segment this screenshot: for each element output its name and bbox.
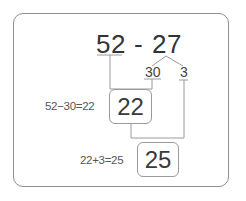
minuend: 52 [96, 31, 126, 57]
step1-result-box: 22 [109, 89, 152, 124]
decomposition-tens: 30 [145, 65, 161, 79]
step2-result: 25 [145, 146, 172, 174]
step2-equation: 22+3=25 [80, 155, 123, 167]
decomposition-ones: 3 [180, 65, 188, 79]
operator-minus: - [134, 31, 143, 57]
step1-result: 22 [117, 93, 144, 121]
step2-result-box: 25 [137, 142, 179, 177]
step1-equation: 52−30=22 [45, 101, 94, 113]
subtrahend: 27 [152, 31, 182, 57]
